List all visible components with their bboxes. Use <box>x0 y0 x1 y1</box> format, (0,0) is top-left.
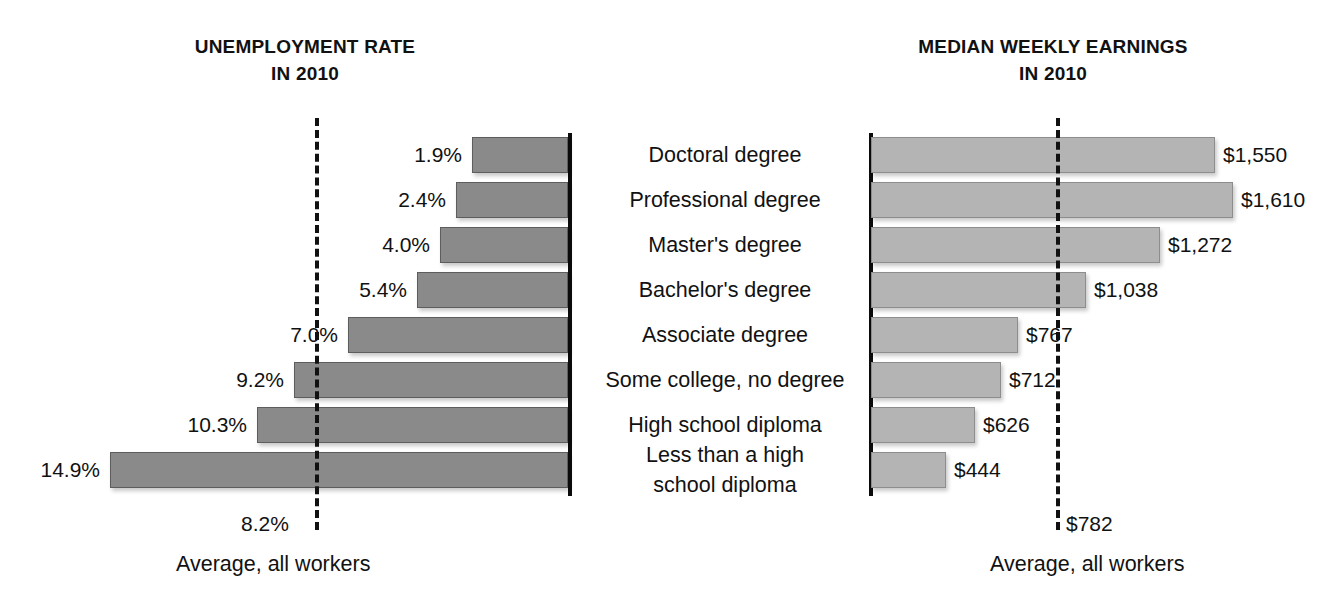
unemployment-bar <box>440 227 568 263</box>
unemployment-bar <box>456 182 568 218</box>
unemployment-value-label: 1.9% <box>414 137 462 173</box>
left-chart-title: UNEMPLOYMENT RATE IN 2010 <box>155 33 455 87</box>
category-label-text: Professional degree <box>629 185 820 215</box>
category-label: Less than a high school diploma <box>580 452 870 488</box>
category-label-text: Associate degree <box>642 320 808 350</box>
unemployment-bar <box>294 362 568 398</box>
category-label-text: Master's degree <box>648 230 801 260</box>
left-chart-title-line1: UNEMPLOYMENT RATE <box>195 36 416 57</box>
category-label: High school diploma <box>580 407 870 443</box>
left-average-reference-line <box>315 118 319 530</box>
left-chart-axis-spine <box>568 133 572 496</box>
category-label: Some college, no degree <box>580 362 870 398</box>
category-label-text: Less than a high school diploma <box>646 440 804 500</box>
category-label-text: High school diploma <box>628 410 822 440</box>
right-chart-title-line2: IN 2010 <box>883 60 1223 87</box>
category-label: Professional degree <box>580 182 870 218</box>
unemployment-value-label: 10.3% <box>187 407 247 443</box>
unemployment-bar <box>348 317 568 353</box>
right-average-caption: Average, all workers <box>990 552 1184 577</box>
unemployment-value-label: 14.9% <box>40 452 100 488</box>
earnings-value-label: $767 <box>1026 317 1073 353</box>
unemployment-bar <box>110 452 568 488</box>
right-average-value: $782 <box>1066 512 1113 536</box>
unemployment-value-label: 2.4% <box>398 182 446 218</box>
right-average-reference-line <box>1056 118 1060 530</box>
earnings-bar <box>871 452 946 488</box>
left-average-caption: Average, all workers <box>176 552 370 577</box>
earnings-bar <box>871 317 1018 353</box>
earnings-bar <box>871 227 1160 263</box>
earnings-bar <box>871 407 975 443</box>
category-label-text: Bachelor's degree <box>639 275 812 305</box>
category-label: Bachelor's degree <box>580 272 870 308</box>
earnings-value-label: $712 <box>1009 362 1056 398</box>
earnings-value-label: $1,610 <box>1241 182 1305 218</box>
earnings-bar <box>871 137 1215 173</box>
category-label: Doctoral degree <box>580 137 870 173</box>
earnings-value-label: $1,272 <box>1168 227 1232 263</box>
left-chart-title-line2: IN 2010 <box>155 60 455 87</box>
category-label-text: Some college, no degree <box>605 365 844 395</box>
left-average-value: 8.2% <box>241 512 289 536</box>
earnings-value-label: $626 <box>983 407 1030 443</box>
earnings-value-label: $1,550 <box>1223 137 1287 173</box>
earnings-bar <box>871 272 1086 308</box>
right-chart-title: MEDIAN WEEKLY EARNINGS IN 2010 <box>883 33 1223 87</box>
right-chart-title-line1: MEDIAN WEEKLY EARNINGS <box>918 36 1187 57</box>
category-label: Master's degree <box>580 227 870 263</box>
category-label-text: Doctoral degree <box>649 140 802 170</box>
unemployment-value-label: 5.4% <box>359 272 407 308</box>
category-label: Associate degree <box>580 317 870 353</box>
unemployment-bar <box>417 272 568 308</box>
unemployment-value-label: 9.2% <box>236 362 284 398</box>
infographic-canvas: UNEMPLOYMENT RATE IN 2010 MEDIAN WEEKLY … <box>0 0 1343 601</box>
unemployment-bar <box>472 137 568 173</box>
earnings-bar <box>871 182 1233 218</box>
unemployment-bar <box>257 407 568 443</box>
earnings-bar <box>871 362 1001 398</box>
unemployment-value-label: 4.0% <box>382 227 430 263</box>
earnings-value-label: $444 <box>954 452 1001 488</box>
earnings-value-label: $1,038 <box>1094 272 1158 308</box>
